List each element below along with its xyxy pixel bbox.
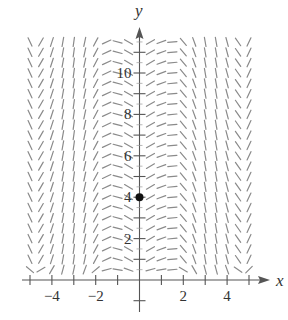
slope-segment: [62, 120, 64, 129]
slope-segment: [180, 204, 186, 211]
slope-segment: [226, 141, 228, 150]
slope-segment: [235, 80, 240, 88]
slope-segment: [180, 214, 186, 221]
slope-segment: [50, 151, 53, 160]
slope-segment: [28, 172, 32, 180]
slope-segment: [62, 193, 64, 202]
slope-segment: [157, 206, 166, 209]
slope-segment: [94, 203, 98, 211]
slope-segment: [193, 89, 196, 98]
slope-segment: [28, 58, 32, 66]
slope-segment: [94, 152, 98, 160]
slope-segment: [113, 82, 122, 84]
slope-segment: [193, 58, 196, 67]
slope-segment: [39, 204, 44, 212]
slope-segment: [102, 112, 110, 116]
slope-segment: [235, 235, 240, 243]
slope-segment: [180, 38, 186, 45]
slope-segment: [125, 257, 133, 262]
slope-segment: [226, 38, 228, 47]
slope-segment: [39, 59, 44, 67]
slope-segment: [193, 79, 196, 88]
slope-segment: [204, 100, 206, 109]
slope-segment: [113, 103, 122, 105]
slope-segment: [247, 193, 251, 201]
slope-segment: [50, 172, 53, 181]
slope-segment: [157, 92, 166, 95]
slope-segment: [39, 214, 44, 222]
y-tick-label: 10: [117, 65, 132, 81]
slope-segment: [113, 175, 122, 177]
y-tick-label: 6: [124, 148, 132, 164]
slope-segment: [247, 100, 251, 108]
slope-segment: [157, 40, 166, 43]
slope-segment: [50, 182, 53, 191]
slope-segment: [235, 173, 240, 181]
slope-segment: [180, 121, 186, 128]
slope-segment: [50, 245, 53, 254]
slope-segment: [73, 162, 74, 171]
slope-segment: [235, 152, 240, 160]
slope-segment: [235, 90, 240, 98]
slope-segment: [50, 234, 53, 243]
slope-segment: [102, 71, 110, 75]
slope-segment: [28, 131, 32, 139]
slope-segment: [102, 247, 110, 251]
slope-segment: [102, 206, 110, 210]
slope-segment: [247, 38, 251, 46]
slope-segment: [84, 37, 86, 46]
slope-segment: [62, 89, 64, 98]
slope-segment: [146, 185, 154, 190]
slope-segment: [62, 79, 64, 88]
slope-segment: [247, 183, 251, 191]
slope-segment: [113, 258, 122, 260]
slope-segment: [125, 40, 133, 45]
slope-segment: [192, 266, 197, 274]
slope-segment: [247, 214, 251, 222]
slope-segment: [102, 154, 110, 158]
slope-segment: [50, 110, 53, 119]
slope-segment: [247, 79, 251, 87]
slope-segment: [235, 38, 240, 46]
slope-segment: [113, 206, 122, 208]
slope-segment: [168, 218, 177, 219]
slope-segment: [168, 145, 177, 146]
slope-segment: [157, 154, 166, 157]
slope-segment: [157, 165, 166, 168]
slope-field-figure: −4−224246810 x y: [0, 0, 288, 320]
slope-segment: [102, 81, 110, 85]
slope-segment: [73, 141, 74, 150]
slope-segment: [235, 49, 240, 57]
slope-segment: [157, 175, 166, 178]
slope-segment: [204, 120, 206, 129]
slope-segment: [62, 234, 64, 243]
slope-segment: [204, 193, 206, 202]
slope-segment: [226, 48, 228, 57]
slope-segment: [50, 79, 53, 88]
slope-segment: [146, 91, 154, 96]
slope-segment: [179, 267, 187, 272]
slope-segment: [113, 237, 122, 239]
slope-segment: [50, 266, 55, 274]
slope-segment: [180, 101, 186, 108]
slope-segment: [94, 141, 98, 149]
slope-segment: [180, 235, 186, 242]
slope-segment: [84, 234, 86, 243]
slope-segment: [226, 58, 228, 67]
slope-segment: [215, 37, 217, 46]
slope-segment: [215, 182, 217, 191]
slope-segment: [215, 255, 217, 264]
slope-segment: [180, 256, 186, 263]
slope-segment: [39, 131, 44, 139]
slope-segment: [235, 214, 240, 222]
slope-segment: [180, 183, 186, 190]
slope-segment: [84, 110, 86, 119]
slope-segment: [157, 61, 166, 64]
slope-segment: [215, 244, 217, 253]
slope-segment: [247, 224, 251, 232]
slope-segment: [102, 92, 110, 96]
slope-segment: [204, 203, 206, 212]
slope-segment: [193, 131, 196, 140]
slope-segment: [39, 173, 44, 181]
slope-segment: [204, 48, 206, 57]
